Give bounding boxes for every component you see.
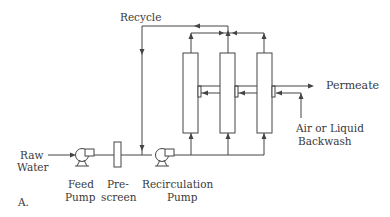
recycle-label: Recycle: [120, 11, 161, 23]
arrow-icon: [226, 133, 231, 139]
membrane-module-3: [257, 53, 272, 133]
prescreen-label-line1: Pre-: [107, 178, 129, 190]
panel-label: A.: [18, 196, 29, 208]
permeate-label: Permeate: [326, 80, 379, 92]
recirc-pump-label-line2: Pump: [167, 191, 198, 203]
feed-pump-label-line1: Feed: [68, 178, 94, 190]
backwash-label-line2: Backwash: [298, 135, 352, 147]
feed-pump-label-line2: Pump: [65, 191, 96, 203]
raw-water-label-line2: Water: [17, 161, 49, 173]
prescreen-icon: [114, 142, 121, 167]
arrow-icon: [232, 31, 237, 36]
arrow-icon: [140, 49, 145, 55]
arrow-icon: [299, 93, 304, 99]
raw-water-label-line1: Raw: [20, 149, 43, 161]
arrow-icon: [239, 91, 245, 96]
arrow-icon: [194, 24, 200, 29]
prescreen-label-line2: screen: [101, 191, 136, 203]
membrane-module-2: [220, 53, 235, 133]
arrow-icon: [262, 33, 267, 39]
arrow-icon: [202, 91, 208, 96]
arrow-icon: [308, 84, 314, 89]
arrow-icon: [262, 133, 267, 139]
membrane-module-1: [183, 53, 198, 133]
arrow-icon: [189, 33, 194, 39]
recirculation-pump-icon: [155, 149, 174, 167]
feed-pump-icon: [75, 149, 94, 167]
arrow-icon: [276, 91, 282, 96]
recirc-pump-label-line1: Recirculation: [142, 178, 213, 190]
membrane-process-diagram: Recycle Permeate Air or Liquid Backwash …: [0, 0, 390, 217]
arrow-icon: [219, 31, 224, 36]
arrow-icon: [140, 145, 145, 151]
arrow-icon: [189, 133, 194, 139]
backwash-label-line1: Air or Liquid: [296, 122, 364, 134]
